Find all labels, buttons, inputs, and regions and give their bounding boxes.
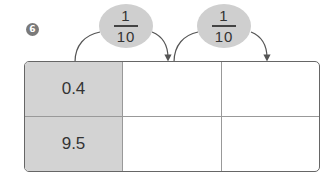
answer-table: 0.4 9.5 (24, 61, 320, 172)
given-cell: 0.4 (25, 62, 123, 117)
operation-oval-1: 1 10 (99, 4, 153, 48)
answer-cell[interactable] (123, 117, 222, 172)
denominator: 10 (215, 29, 234, 44)
fraction-bar (212, 25, 236, 26)
fraction-bar (114, 25, 138, 26)
numerator: 1 (219, 8, 228, 23)
numerator: 1 (121, 8, 130, 23)
given-cell: 9.5 (25, 117, 123, 172)
arrow-1-tail-icon (152, 32, 168, 58)
operation-oval-2: 1 10 (197, 4, 251, 48)
answer-cell[interactable] (222, 117, 319, 172)
arrow-2-tail-icon (251, 32, 267, 58)
answer-cell[interactable] (123, 62, 222, 117)
denominator: 10 (117, 29, 136, 44)
arrow-2-icon (174, 32, 198, 62)
arrow-1-icon (75, 32, 100, 62)
answer-cell[interactable] (222, 62, 319, 117)
